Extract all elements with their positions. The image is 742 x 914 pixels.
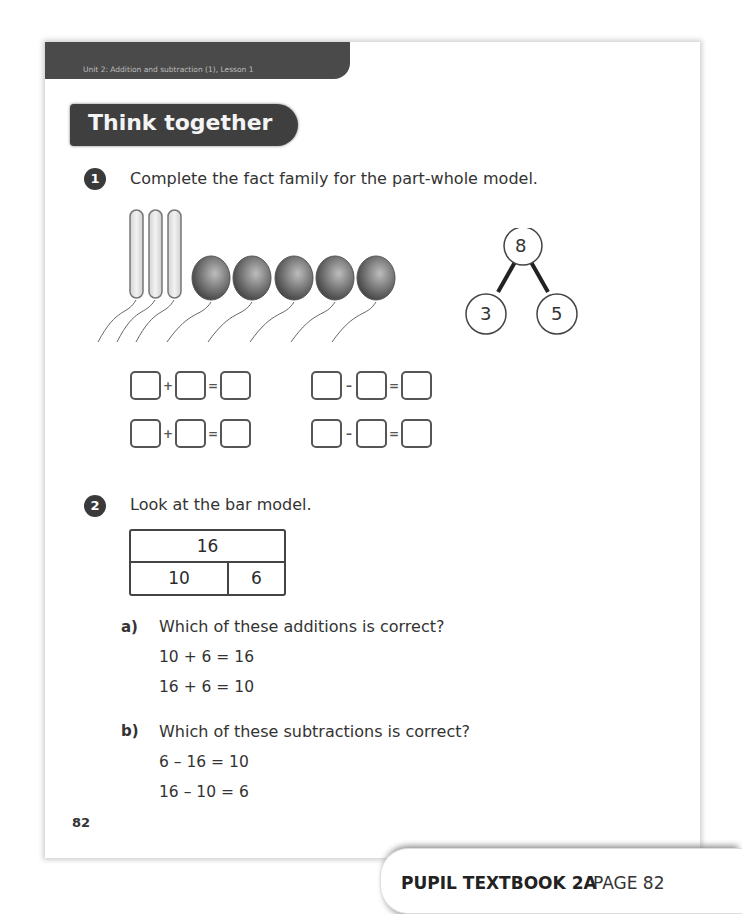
- answer-box[interactable]: [175, 419, 206, 448]
- section-title-banner: Think together: [70, 104, 298, 146]
- footer-tab: PUPIL TEXTBOOK 2A PAGE 82: [380, 848, 742, 914]
- question-2-badge: 2: [84, 495, 106, 517]
- unit-header-bar: Unit 2: Addition and subtraction (1), Le…: [45, 42, 350, 79]
- equals-sign: =: [387, 427, 401, 441]
- part-a-prompt: Which of these additions is correct?: [159, 617, 444, 636]
- equation-row-2: – =: [311, 371, 432, 400]
- footer-page-ref: PAGE 82: [593, 873, 664, 893]
- equation-row-3: + =: [130, 419, 251, 448]
- equals-sign: =: [387, 379, 401, 393]
- answer-box[interactable]: [311, 419, 342, 448]
- plus-sign: +: [161, 427, 175, 441]
- answer-box[interactable]: [130, 371, 161, 400]
- round-balloons: [192, 256, 395, 300]
- answer-box[interactable]: [401, 371, 432, 400]
- page-number: 82: [72, 815, 90, 830]
- answer-box[interactable]: [311, 371, 342, 400]
- minus-sign: –: [342, 427, 356, 441]
- equation-row-1: + =: [130, 371, 251, 400]
- equation-row-4: – =: [311, 419, 432, 448]
- part-a-option-1[interactable]: 10 + 6 = 16: [159, 648, 254, 666]
- bar-model-whole: 16: [131, 531, 284, 563]
- answer-box[interactable]: [401, 419, 432, 448]
- part-a-option-2[interactable]: 16 + 6 = 10: [159, 678, 254, 696]
- answer-box[interactable]: [220, 419, 251, 448]
- part-b-option-2[interactable]: 16 – 10 = 6: [159, 783, 249, 801]
- answer-box[interactable]: [175, 371, 206, 400]
- bar-model: 16 10 6: [129, 529, 286, 596]
- section-title: Think together: [88, 110, 272, 135]
- question-1-prompt: Complete the fact family for the part-wh…: [130, 169, 538, 188]
- long-balloons: [130, 210, 181, 298]
- part-b-option-1[interactable]: 6 – 16 = 10: [159, 753, 249, 771]
- question-2-prompt: Look at the bar model.: [130, 495, 312, 514]
- part-whole-right-part: 5: [551, 303, 562, 324]
- part-whole-left-part: 3: [480, 303, 491, 324]
- answer-box[interactable]: [220, 371, 251, 400]
- plus-sign: +: [161, 379, 175, 393]
- unit-label: Unit 2: Addition and subtraction (1), Le…: [83, 65, 253, 74]
- answer-box[interactable]: [356, 419, 387, 448]
- bar-model-right-part: 6: [229, 563, 284, 594]
- equals-sign: =: [206, 379, 220, 393]
- textbook-page: Unit 2: Addition and subtraction (1), Le…: [45, 42, 700, 858]
- minus-sign: –: [342, 379, 356, 393]
- answer-box[interactable]: [130, 419, 161, 448]
- balloon-strings: [98, 300, 376, 342]
- part-a-label: a): [121, 618, 138, 636]
- footer-book-title: PUPIL TEXTBOOK 2A: [401, 873, 597, 893]
- answer-box[interactable]: [356, 371, 387, 400]
- balloons-illustration: [97, 206, 397, 346]
- equals-sign: =: [206, 427, 220, 441]
- bar-model-left-part: 10: [131, 563, 229, 594]
- part-whole-whole: 8: [515, 235, 526, 256]
- question-1-badge: 1: [84, 168, 106, 190]
- part-b-label: b): [121, 722, 139, 740]
- part-b-prompt: Which of these subtractions is correct?: [159, 722, 470, 741]
